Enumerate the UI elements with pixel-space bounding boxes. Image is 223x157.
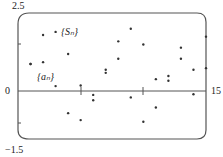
x-right-label: 15 xyxy=(211,86,221,96)
data-point xyxy=(155,106,157,108)
data-point xyxy=(155,78,157,80)
data-point xyxy=(29,63,31,65)
y-top-label: 2.5 xyxy=(12,1,25,11)
data-point xyxy=(130,28,132,30)
data-point xyxy=(117,40,119,42)
data-point xyxy=(142,120,144,122)
chart-canvas xyxy=(0,0,223,157)
data-point xyxy=(79,84,81,86)
data-point xyxy=(42,61,44,63)
data-point xyxy=(180,57,182,59)
data-point xyxy=(130,96,132,98)
data-point xyxy=(192,69,194,71)
data-point xyxy=(54,85,56,87)
data-points xyxy=(29,28,207,123)
y-bottom-label: −1.5 xyxy=(5,145,23,155)
data-point xyxy=(167,75,169,77)
data-point xyxy=(92,99,94,101)
y-zero-label: 0 xyxy=(5,86,10,96)
data-point xyxy=(92,94,94,96)
data-point xyxy=(205,67,207,69)
data-point xyxy=(180,46,182,48)
data-point xyxy=(54,31,56,33)
data-point xyxy=(167,80,169,82)
data-point xyxy=(79,119,81,121)
data-point xyxy=(105,69,107,71)
data-point xyxy=(205,35,207,37)
data-point xyxy=(117,57,119,59)
data-point xyxy=(42,34,44,36)
data-point xyxy=(192,93,194,95)
data-point xyxy=(142,43,144,45)
data-point xyxy=(67,53,69,55)
s-series-label: {Sₙ} xyxy=(61,27,78,37)
data-point xyxy=(67,112,69,114)
a-series-label: {aₙ} xyxy=(37,72,54,82)
data-point xyxy=(105,72,107,74)
